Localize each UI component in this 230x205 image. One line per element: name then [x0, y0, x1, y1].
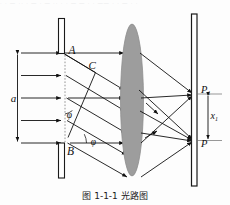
converging-ray-group	[139, 53, 192, 177]
diffracted-ray-2	[66, 76, 125, 112]
incident-ray-group	[21, 53, 61, 143]
single-slit-diffraction-diagram: a φ φ A C B	[0, 0, 230, 205]
slit-plate-lower	[59, 143, 65, 178]
slit-mid-label: C	[89, 59, 97, 71]
angle-label-upper: φ	[67, 110, 72, 120]
aperture-width-label: a	[11, 92, 17, 104]
aperture-dimension: a	[11, 55, 18, 142]
ray-midarrow-1	[146, 103, 158, 114]
observation-screen	[192, 14, 198, 186]
ray-lens-to-P-c	[141, 133, 192, 141]
screen-measurement-group	[197, 94, 222, 141]
screen-distance-subscript: 1	[215, 116, 218, 122]
converging-lens	[121, 24, 144, 176]
screen-point-lower-label: P	[200, 138, 208, 149]
optics-figure: · · — ·· · — · — ·· · · — — · · —— · · —…	[0, 0, 230, 205]
slit-bottom-label: B	[67, 145, 74, 157]
screen-point-upper-label: P1	[200, 84, 210, 96]
slit-plate-upper	[59, 19, 65, 54]
screen-point-upper-subscript: 1	[207, 90, 210, 96]
figure-caption: 图 1-1-1 光路图	[0, 189, 230, 202]
ray-lens-to-P1-a	[140, 53, 192, 93]
ray-lens-to-P1-b	[141, 95, 192, 98]
diffracted-ray-B	[68, 143, 128, 177]
angle-label-lower: φ	[91, 137, 96, 147]
diffracted-ray-to-lens-group	[65, 54, 128, 177]
ray-midarrow-2	[145, 131, 157, 138]
slit-top-label: A	[68, 44, 77, 56]
diffracted-ray-3	[67, 98, 127, 133]
ray-lens-to-P-d	[141, 142, 192, 177]
screen-distance-label: x1	[210, 110, 218, 122]
angle-arc-lower	[84, 134, 86, 143]
wavefront-tilted-CB	[68, 73, 96, 138]
diffracted-ray-4	[67, 121, 127, 156]
